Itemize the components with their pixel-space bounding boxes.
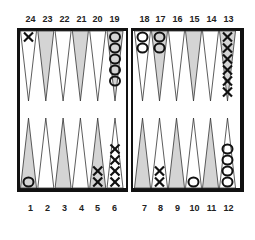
point-21[interactable]: [72, 31, 88, 101]
point-20[interactable]: [90, 31, 106, 101]
point-6[interactable]: [107, 118, 123, 188]
board-bar: [126, 28, 133, 192]
point-label-11: 11: [203, 202, 220, 214]
point-11[interactable]: [203, 118, 219, 188]
point-22[interactable]: [55, 31, 71, 101]
point-15[interactable]: [186, 31, 202, 101]
point-2[interactable]: [38, 118, 54, 188]
point-label-6: 6: [106, 202, 123, 214]
point-label-9: 9: [169, 202, 186, 214]
point-label-8: 8: [152, 202, 169, 214]
point-label-5: 5: [89, 202, 106, 214]
point-5[interactable]: [90, 118, 106, 188]
point-label-2: 2: [39, 202, 56, 214]
point-8[interactable]: [152, 118, 168, 188]
point-label-3: 3: [56, 202, 73, 214]
point-3[interactable]: [55, 118, 71, 188]
point-16[interactable]: [169, 31, 185, 101]
bottom-point-labels: 1 2 3 4 5 6 7 8 9 10 11 12: [0, 202, 255, 214]
point-23[interactable]: [38, 31, 54, 101]
point-7[interactable]: [135, 118, 151, 188]
point-label-4: 4: [73, 202, 90, 214]
point-4[interactable]: [72, 118, 88, 188]
point-9[interactable]: [169, 118, 185, 188]
point-label-1: 1: [22, 202, 39, 214]
point-14[interactable]: [203, 31, 219, 101]
point-label-7: 7: [136, 202, 153, 214]
point-label-10: 10: [186, 202, 203, 214]
point-24[interactable]: [21, 31, 37, 101]
point-label-12: 12: [220, 202, 237, 214]
